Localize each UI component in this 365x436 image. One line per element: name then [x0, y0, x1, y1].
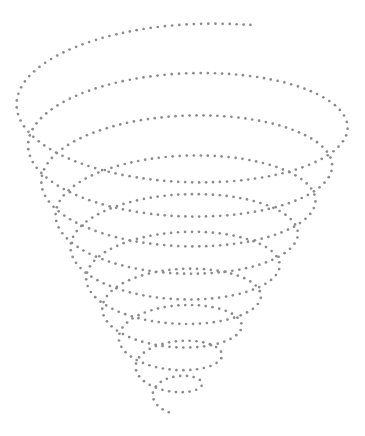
spiral-dot: [76, 246, 79, 249]
spiral-dot: [98, 255, 101, 258]
spiral-dot: [203, 345, 206, 348]
spiral-dot: [202, 114, 205, 117]
spiral-dot: [151, 320, 154, 323]
spiral-dot: [117, 164, 120, 167]
spiral-dot: [88, 41, 91, 44]
spiral-dot: [66, 237, 69, 240]
spiral-dot: [170, 214, 173, 217]
spiral-figure: [0, 0, 365, 436]
spiral-dot: [136, 199, 139, 202]
spiral-dot: [248, 159, 251, 162]
spiral-dot: [116, 244, 119, 247]
spiral-dot: [112, 125, 115, 128]
spiral-dot: [244, 117, 247, 120]
spiral-dot: [126, 321, 129, 324]
spiral-dot: [137, 314, 140, 317]
spiral-dot: [308, 163, 311, 166]
spiral-dot: [210, 272, 213, 275]
spiral-dot: [35, 166, 38, 169]
spiral-dot: [226, 180, 229, 183]
spiral-dot: [105, 304, 108, 307]
spiral-dot: [281, 204, 284, 207]
spiral-dot: [156, 404, 159, 407]
spiral-dot: [235, 334, 238, 337]
spiral-dot: [118, 339, 121, 342]
spiral-dot: [262, 162, 265, 165]
spiral-dot: [202, 341, 205, 344]
spiral-dot: [225, 295, 228, 298]
spiral-dot: [267, 208, 270, 211]
spiral-dot: [321, 145, 324, 148]
spiral-dot: [291, 128, 294, 131]
spiral-dot: [122, 208, 125, 211]
spiral-dot: [316, 141, 319, 144]
spiral-dot: [218, 307, 221, 310]
spiral-dot: [164, 25, 167, 28]
spiral-dot: [162, 297, 165, 300]
spiral-dot: [86, 285, 89, 288]
spiral-dot: [87, 165, 90, 168]
spiral-dot: [150, 309, 153, 312]
spiral-dot: [67, 189, 70, 192]
spiral-dot: [147, 118, 150, 121]
spiral-dot: [254, 177, 257, 180]
spiral-dot: [105, 127, 108, 130]
spiral-dot: [129, 201, 132, 204]
spiral-dot: [249, 24, 252, 27]
spiral-dot: [212, 244, 215, 247]
spiral-dot: [309, 213, 312, 216]
spiral-dot: [121, 174, 124, 177]
spiral-dot: [135, 359, 138, 362]
spiral-dot: [95, 255, 98, 258]
spiral-dot: [134, 338, 137, 341]
spiral-dot: [246, 238, 249, 241]
spiral-dot: [300, 178, 303, 181]
spiral-dot: [232, 196, 235, 199]
spiral-dot: [111, 307, 114, 310]
spiral-dot: [239, 197, 242, 200]
spiral-dot: [33, 70, 36, 73]
spiral-dot: [122, 242, 125, 245]
spiral-dot: [233, 180, 236, 183]
spiral-dot: [239, 314, 242, 317]
spiral-dot: [215, 346, 218, 349]
spiral-dot: [129, 240, 132, 243]
spiral-dot: [157, 321, 160, 324]
spiral-dot: [297, 85, 300, 88]
spiral-dot: [236, 274, 239, 277]
spiral-dot: [99, 300, 102, 303]
spiral-dot: [121, 237, 124, 240]
spiral-dot: [198, 245, 201, 248]
spiral-dot: [231, 269, 234, 272]
spiral-dot: [284, 213, 287, 216]
spiral-dot: [287, 228, 290, 231]
spiral-dot: [218, 194, 221, 197]
spiral-dot: [116, 205, 119, 208]
spiral-dot: [101, 85, 104, 88]
spiral-dot: [216, 115, 219, 118]
spiral-dot: [162, 367, 165, 370]
spiral-dot: [209, 343, 212, 346]
spiral-dot: [54, 213, 57, 216]
spiral-dot: [128, 291, 131, 294]
spiral-dot: [220, 155, 223, 158]
spiral-dot: [170, 231, 173, 234]
spiral-dot: [183, 272, 186, 275]
spiral-dot: [252, 307, 255, 310]
spiral-dot: [17, 92, 20, 95]
spiral-dot: [122, 203, 125, 206]
spiral-dot: [181, 114, 184, 117]
spiral-dot: [149, 178, 152, 181]
spiral-dot: [238, 292, 241, 295]
spiral-dot: [242, 23, 245, 26]
spiral-dot: [200, 22, 203, 25]
spiral-dot: [135, 362, 138, 365]
spiral-dot: [184, 181, 187, 184]
spiral-dot: [288, 171, 291, 174]
spiral-dot: [337, 145, 340, 148]
spiral-dot: [149, 295, 152, 298]
spiral-dot: [190, 298, 193, 301]
spiral-dot: [219, 320, 222, 323]
spiral-dot: [75, 194, 78, 197]
spiral-dot: [301, 166, 304, 169]
